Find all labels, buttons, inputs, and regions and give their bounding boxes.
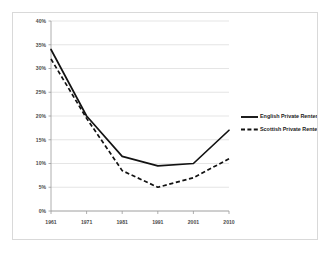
legend-label-english-private-renters: English Private Renters — [260, 113, 317, 119]
y-tick-label-35%: 35% — [36, 42, 47, 48]
gridlines-group — [51, 21, 229, 211]
y-tick-label-10%: 10% — [36, 160, 47, 166]
x-tick-label-1961: 1961 — [45, 219, 56, 225]
x-axis-tick-labels: 196119711981199120012010 — [45, 211, 234, 225]
data-series-group — [51, 50, 229, 188]
y-tick-label-0%: 0% — [39, 208, 47, 214]
x-tick-label-1981: 1981 — [117, 219, 128, 225]
line-chart: 0%5%10%15%20%25%30%35%40% 19611971198119… — [13, 13, 317, 239]
y-tick-label-30%: 30% — [36, 65, 47, 71]
y-tick-label-15%: 15% — [36, 137, 47, 143]
chart-figure: 0%5%10%15%20%25%30%35%40% 19611971198119… — [12, 12, 318, 240]
y-tick-label-20%: 20% — [36, 113, 47, 119]
x-tick-label-1991: 1991 — [152, 219, 163, 225]
series-line-scottish-private-renters — [51, 59, 229, 187]
y-tick-label-40%: 40% — [36, 18, 47, 24]
x-tick-label-1971: 1971 — [81, 219, 92, 225]
chart-legend: English Private RentersScottish Private … — [241, 113, 317, 132]
plot-area-wrapper: 0%5%10%15%20%25%30%35%40% 19611971198119… — [13, 13, 317, 239]
series-line-english-private-renters — [51, 50, 229, 166]
y-tick-label-25%: 25% — [36, 89, 47, 95]
x-tick-label-2010: 2010 — [223, 219, 234, 225]
x-tick-label-2001: 2001 — [188, 219, 199, 225]
y-axis-tick-labels: 0%5%10%15%20%25%30%35%40% — [36, 18, 51, 214]
y-tick-label-5%: 5% — [39, 184, 47, 190]
legend-label-scottish-private-renters: Scottish Private Renters — [260, 126, 317, 132]
